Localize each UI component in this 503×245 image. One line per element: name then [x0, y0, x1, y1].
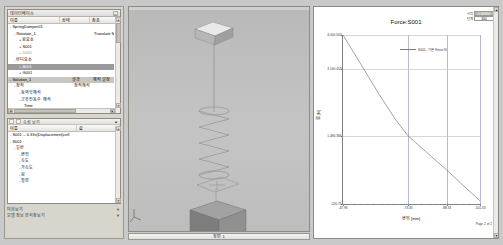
tree-row-col2: [72, 139, 93, 146]
tree-row[interactable]: - Rotation_1Translate Motion: [8, 31, 114, 38]
column-header-name[interactable]: 이름: [8, 17, 60, 23]
x-tick-label: -47.96: [338, 206, 347, 210]
tree-row-col3: [94, 83, 114, 90]
scroll-up-icon[interactable]: ▲: [494, 7, 499, 12]
chart-pane: 시작 0.00000 단계 300 Force:S001 -220.751.48…: [313, 6, 499, 239]
chart-vertical-scrollbar[interactable]: ▲ ▼: [493, 7, 498, 238]
tree-row-label: - 가속도: [19, 165, 76, 172]
prop-column-header-name[interactable]: 이름: [8, 125, 77, 131]
tree-row[interactable]: - 정적정적해석: [8, 83, 114, 90]
tree-row[interactable]: - S001: [8, 139, 114, 146]
model-info-label[interactable]: 모델 정보 분석창보기: [7, 213, 121, 219]
x-minor-tick: [384, 204, 385, 205]
3d-viewport[interactable]: [128, 6, 310, 232]
y-axis-label: 힘 [N]: [315, 93, 321, 137]
grid-line-vertical: [480, 35, 481, 204]
tree-row[interactable]: - 동역학해석: [8, 90, 114, 97]
tree-row[interactable]: - 바디요소: [8, 57, 114, 64]
tree-row[interactable]: + D001: [8, 50, 114, 57]
tree-row-col3: [95, 50, 114, 57]
tree-row[interactable]: - S001 -- 0.33s(Displacement)cell: [8, 132, 114, 139]
tree-row-label: - 속도: [19, 158, 76, 165]
grid-icon[interactable]: [9, 119, 14, 124]
tree-row-label: - S001: [10, 139, 72, 146]
scroll-down-icon[interactable]: ▼: [116, 198, 121, 203]
x-minor-tick: [425, 204, 426, 205]
series-line: [343, 35, 480, 201]
tree-row[interactable]: - 속도: [8, 158, 114, 165]
tree-row-col2: [76, 165, 95, 172]
scroll-right-icon[interactable]: ►: [110, 109, 115, 113]
properties-vertical-scrollbar[interactable]: ▲ ▼: [115, 126, 120, 203]
legend-label: S001 - 기본:Force:N: [418, 47, 447, 52]
scroll-down-icon[interactable]: ▼: [116, 103, 121, 108]
tree-row-label: - 고유진동수 해석: [19, 97, 76, 104]
close-icon[interactable]: ×: [113, 11, 118, 16]
tree-row[interactable]: - 일반: [8, 145, 114, 152]
tree-row[interactable]: - 가속도: [8, 165, 114, 172]
database-panel: 데이터베이스 × 이름 상태 참조 - SpringDamper01- Rota…: [7, 9, 121, 114]
x-minor-tick: [432, 204, 433, 205]
properties-toolbar-label: 속성 보기: [23, 119, 40, 125]
chart-series-layer: [343, 35, 480, 204]
x-minor-tick: [412, 204, 413, 205]
tree-row[interactable]: - 변위: [8, 152, 114, 159]
scroll-up-icon[interactable]: ▲: [116, 126, 121, 131]
tree-row-col3: 해석 설정: [93, 77, 114, 84]
tree-row[interactable]: - Solution_1결과해석 설정: [8, 77, 114, 84]
list-icon[interactable]: [16, 119, 21, 124]
chart-start-value[interactable]: 0.00000: [474, 11, 494, 16]
scroll-thumb[interactable]: [116, 23, 121, 43]
tree-row-label: + G001: [19, 70, 76, 77]
tree-row-col3: [95, 44, 114, 51]
prop-column-header-value[interactable]: 값: [77, 125, 120, 131]
database-panel-title: 데이터베이스: [10, 11, 34, 16]
tree-row-col2: 결과: [72, 77, 93, 84]
tree-row-col2: [74, 57, 94, 64]
pin-icon[interactable]: ▲: [114, 119, 118, 124]
x-minor-tick: [377, 204, 378, 205]
database-panel-titlebar: 데이터베이스 ×: [8, 10, 120, 17]
tree-row[interactable]: + S001: [8, 44, 114, 51]
scroll-left-icon[interactable]: ◄: [8, 109, 13, 113]
dock-footer: 미리보기 모델 정보 분석창보기 ▼ ▼: [5, 206, 123, 220]
column-header-status[interactable]: 상태: [60, 17, 90, 23]
x-axis-label: 변위 [mm]: [342, 215, 480, 221]
y-tick-label: 4.000.003: [327, 33, 341, 37]
tree-row-col3: [94, 57, 114, 64]
tree-row[interactable]: - 힘: [8, 172, 114, 179]
chart-title: Force:S001: [314, 19, 498, 25]
tree-row[interactable]: + 힘요소: [8, 37, 114, 44]
tree-row[interactable]: + G001: [8, 70, 114, 77]
viewport-top-strip: [129, 7, 309, 10]
x-minor-tick: [439, 204, 440, 205]
plot-area[interactable]: -220.751.480.3663.140.4534.000.003-47.96…: [342, 35, 480, 205]
viewport-status-text: 정면 1: [213, 234, 224, 239]
chevron-down-icon[interactable]: ▼: [116, 213, 120, 218]
chevron-down-icon[interactable]: ▼: [116, 207, 120, 212]
coil-spring: [199, 107, 229, 179]
properties-column-headers: 이름 값: [8, 125, 120, 132]
tree-row[interactable]: + B001: [8, 64, 114, 71]
hscroll-thumb[interactable]: [14, 109, 76, 113]
database-horizontal-scrollbar[interactable]: ◄ ►: [8, 108, 115, 113]
scroll-up-icon[interactable]: ▲: [116, 17, 121, 22]
tree-row-label: - 바디요소: [14, 57, 74, 64]
tree-row-label: - 동역학해석: [19, 90, 76, 97]
tree-row-col2: [74, 145, 94, 152]
tree-row[interactable]: - 질량: [8, 178, 114, 185]
database-column-headers: 이름 상태 참조: [8, 17, 120, 24]
tree-row-col3: Translate Motion: [94, 31, 114, 38]
tree-row-label: + B001: [19, 64, 76, 71]
legend-swatch: [400, 49, 416, 50]
database-tree[interactable]: - SpringDamper01- Rotation_1Translate Mo…: [8, 24, 120, 108]
tree-row[interactable]: - SpringDamper01: [8, 24, 114, 31]
database-vertical-scrollbar[interactable]: ▲ ▼: [115, 17, 120, 113]
scroll-down-icon[interactable]: ▼: [494, 233, 499, 238]
tree-row-col2: [76, 152, 95, 159]
marker-plane: [197, 177, 239, 192]
tree-row-label: - 변위: [19, 152, 76, 159]
properties-tree[interactable]: - S001 -- 0.33s(Displacement)cell- S001-…: [8, 132, 120, 198]
tree-row[interactable]: - 고유진동수 해석: [8, 97, 114, 104]
x-minor-tick: [364, 204, 365, 205]
